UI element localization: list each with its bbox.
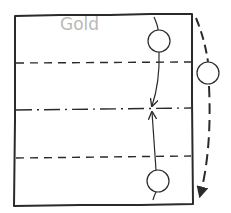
fold-marker-circle-bottom (147, 170, 169, 192)
fold-up-arrow-tail (153, 192, 156, 200)
valley-fold-line-bottom (16, 156, 191, 158)
fold-down-arrow (154, 17, 158, 30)
turn-over-marker-circle (197, 62, 219, 84)
origami-diagram: Gold (0, 0, 231, 213)
fold-marker-circle-top (148, 30, 170, 52)
turn-over-arrow (196, 18, 208, 62)
fold-up-arrow-shaft (152, 112, 156, 170)
turn-over-arrow-lower (200, 86, 210, 196)
fold-down-arrow-shaft (152, 52, 159, 106)
paper-color-label: Gold (60, 14, 99, 34)
mountain-fold-line-center (16, 108, 191, 110)
valley-fold-line-top (16, 62, 191, 63)
